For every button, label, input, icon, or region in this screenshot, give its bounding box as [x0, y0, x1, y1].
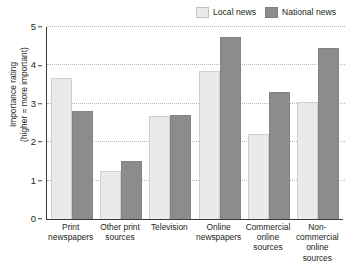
- bar-chart: Local news National news Importance rati…: [0, 0, 351, 261]
- bar-group: [47, 27, 96, 219]
- y-axis-tick-label: 2: [0, 137, 42, 147]
- bar-group: [294, 27, 343, 219]
- y-axis-tick-label: 5: [0, 22, 42, 32]
- legend-swatch-national-news: [265, 7, 278, 18]
- y-axis-tick-mark: [38, 65, 42, 66]
- bar-group: [96, 27, 145, 219]
- plot-area: [46, 27, 343, 220]
- y-axis-tick-label: 0: [0, 214, 42, 224]
- legend-label-national-news: National news: [282, 8, 336, 17]
- bar-local-news: [100, 171, 121, 219]
- legend-item-national-news: National news: [265, 7, 336, 18]
- bar-local-news: [199, 71, 220, 219]
- chart-legend: Local news National news: [196, 7, 336, 18]
- y-axis-tick-label: 1: [0, 176, 42, 186]
- legend-swatch-local-news: [196, 7, 209, 18]
- x-axis-label: Print newspapers: [46, 222, 95, 261]
- x-axis-labels: Print newspapersOther print sourcesTelev…: [46, 222, 342, 261]
- bar-groups: [47, 27, 343, 219]
- bar-group: [195, 27, 244, 219]
- bar-national-news: [170, 115, 191, 219]
- bar-group: [146, 27, 195, 219]
- x-axis-label: Television: [145, 222, 194, 261]
- y-axis-tick-label: 4: [0, 61, 42, 71]
- bar-national-news: [220, 37, 241, 219]
- x-axis-label: Online newspapers: [194, 222, 243, 261]
- legend-item-local-news: Local news: [196, 7, 256, 18]
- y-axis-tick-label: 3: [0, 99, 42, 109]
- bar-national-news: [121, 161, 142, 219]
- x-axis-label: Other print sources: [95, 222, 144, 261]
- bar-national-news: [318, 48, 339, 219]
- y-axis-tick-mark: [38, 142, 42, 143]
- x-axis-label: Non-commercial online sources: [293, 222, 342, 261]
- bar-local-news: [297, 102, 318, 220]
- legend-label-local-news: Local news: [213, 8, 256, 17]
- y-axis-tick-mark: [38, 180, 42, 181]
- y-axis-tick-mark: [38, 219, 42, 220]
- y-axis-tick-mark: [38, 103, 42, 104]
- y-axis-ticks: 543210: [0, 27, 42, 219]
- x-axis-label: Commercial online sources: [243, 222, 292, 261]
- bar-local-news: [248, 134, 269, 219]
- bar-local-news: [149, 116, 170, 219]
- bar-local-news: [51, 78, 72, 219]
- bar-national-news: [269, 92, 290, 219]
- y-axis-tick-mark: [38, 27, 42, 28]
- bar-group: [244, 27, 293, 219]
- bar-national-news: [72, 111, 93, 219]
